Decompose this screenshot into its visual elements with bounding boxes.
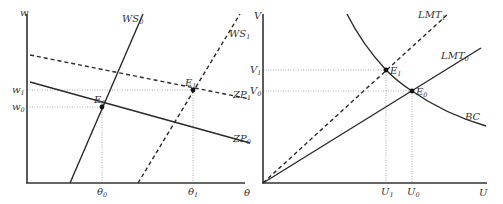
zp1-label: ZP1 — [232, 89, 251, 102]
bc-label: BC — [464, 111, 481, 122]
lmt1-label: LMT1 — [417, 9, 446, 22]
w1-tick-label: w1 — [12, 84, 25, 97]
lmt0-curve — [263, 48, 481, 183]
theta-axis-label: θ — [244, 187, 250, 198]
e1-point — [384, 68, 389, 73]
zp1-curve — [30, 55, 250, 99]
lmt0-label: LMT0 — [440, 50, 469, 63]
v-axis-label: V — [254, 10, 263, 21]
lmt1-curve — [263, 14, 448, 183]
zp0-curve — [30, 82, 250, 143]
w0-tick-label: w0 — [12, 101, 25, 114]
e1-label: E1 — [184, 77, 196, 90]
e1-label: E1 — [389, 65, 401, 78]
ws1-label: WS1 — [229, 28, 250, 41]
ws0-curve — [70, 14, 143, 183]
bc-curve — [347, 14, 486, 126]
diagram-canvas: w θ WS0 WS1 ZP0 ZP1 E0 E1 w1 w0 θ0 θ1 V — [0, 0, 503, 204]
ws0-label: WS0 — [122, 13, 143, 26]
v1-tick-label: V1 — [250, 64, 261, 77]
v0-tick-label: V0 — [250, 85, 261, 98]
e0-point — [410, 89, 415, 94]
zp0-label: ZP0 — [232, 133, 251, 146]
theta1-tick-label: θ1 — [188, 186, 198, 199]
right-panel: V U LMT1 LMT0 BC E1 E0 V1 V0 U1 U0 — [250, 9, 488, 199]
left-panel: w θ WS0 WS1 ZP0 ZP1 E0 E1 w1 w0 θ0 θ1 — [12, 7, 251, 199]
w-axis-label: w — [20, 7, 29, 18]
u-axis-label: U — [479, 187, 488, 198]
u1-tick-label: U1 — [381, 186, 394, 199]
ws1-curve — [138, 14, 240, 183]
e0-label: E0 — [93, 94, 105, 107]
u0-tick-label: U0 — [407, 186, 420, 199]
theta0-tick-label: θ0 — [97, 186, 107, 199]
